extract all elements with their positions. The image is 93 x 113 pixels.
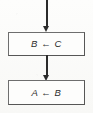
- arrow-shaft: [46, 55, 48, 76]
- arrow-shaft: [46, 0, 48, 27]
- flowchart-figure: B ← C A ← B: [0, 0, 93, 113]
- process-box-bc[interactable]: B ← C: [8, 32, 85, 56]
- process-box-bc-label: B ← C: [31, 38, 62, 48]
- process-box-ab-label: A ← B: [31, 87, 61, 97]
- process-box-ab[interactable]: A ← B: [8, 80, 85, 105]
